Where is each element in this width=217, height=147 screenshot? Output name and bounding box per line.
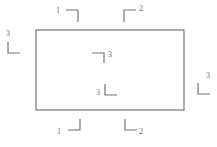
- corner-mark-interior-upper: [92, 53, 104, 63]
- marker-label-top-right-outer: 2: [139, 5, 143, 13]
- technical-drawing: [0, 0, 217, 147]
- corner-mark-top-left-outer: [66, 10, 78, 22]
- main-rectangle: [36, 30, 184, 110]
- corner-mark-left-outer: [8, 42, 20, 53]
- figure-canvas: 12333312: [0, 0, 217, 147]
- corner-mark-top-right-outer: [124, 10, 136, 22]
- marker-label-right-outer: 3: [206, 72, 210, 80]
- corner-mark-bottom-right-outer: [125, 119, 137, 130]
- corner-mark-interior-lower: [105, 84, 117, 95]
- marker-label-interior-upper: 3: [108, 51, 112, 59]
- corner-mark-right-outer: [198, 83, 210, 94]
- marker-label-interior-lower: 3: [96, 89, 100, 97]
- marker-label-bottom-right-outer: 2: [139, 128, 143, 136]
- marker-label-bottom-left-outer: 1: [57, 128, 61, 136]
- marker-label-top-left-outer: 1: [56, 7, 60, 15]
- corner-mark-bottom-left-outer: [68, 119, 80, 130]
- marker-label-left-outer: 3: [6, 30, 10, 38]
